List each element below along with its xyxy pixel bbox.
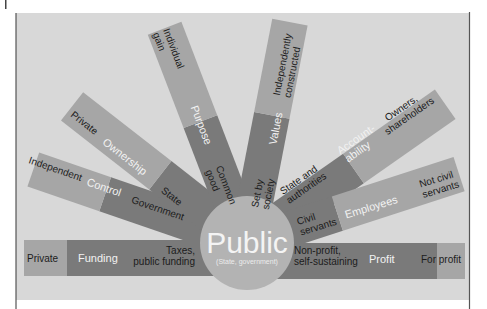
profit-private-label: For profit bbox=[421, 254, 461, 265]
funding-public-label-line2: public funding bbox=[133, 256, 195, 267]
funding-category-label: Funding bbox=[78, 252, 118, 264]
corner-tick bbox=[5, 0, 7, 9]
public-vs-private-fan-diagram: Public (State, government) Private Fundi… bbox=[0, 0, 487, 309]
profit-category-label: Profit bbox=[369, 253, 395, 265]
profit-public-label-line2: self-sustaining bbox=[294, 256, 358, 267]
diagram-canvas: Public (State, government) Private Fundi… bbox=[0, 0, 487, 309]
center-title: Public bbox=[206, 226, 288, 259]
funding-private-label: Private bbox=[27, 253, 59, 264]
center-subtitle: (State, government) bbox=[216, 258, 278, 266]
funding-public-label-line1: Taxes, bbox=[166, 245, 195, 256]
profit-public-label-line1: Non-profit, bbox=[294, 245, 341, 256]
